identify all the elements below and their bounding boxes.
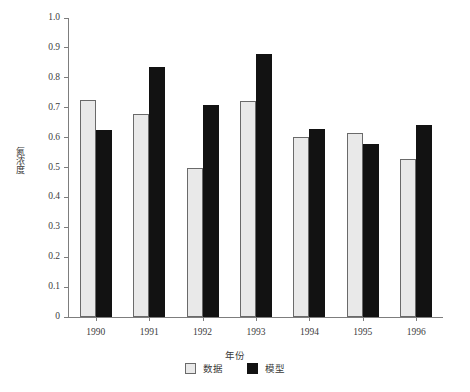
y-tick-label: 0.7 bbox=[48, 101, 60, 114]
legend-item-data[interactable]: 数据 bbox=[185, 361, 223, 375]
bar-model-1993 bbox=[256, 54, 272, 317]
bar-data-1991 bbox=[133, 114, 149, 317]
x-tick-mark bbox=[96, 317, 97, 321]
bar-data-1993 bbox=[240, 101, 256, 317]
bar-model-1990 bbox=[96, 130, 112, 317]
bar-group bbox=[283, 18, 336, 317]
y-tick-label: 0.9 bbox=[48, 41, 60, 54]
bar-data-1995 bbox=[347, 133, 363, 317]
bar-data-1994 bbox=[293, 137, 309, 317]
x-tick-label-1991: 1991 bbox=[140, 327, 159, 337]
bar-model-1995 bbox=[363, 144, 379, 317]
y-tick-label: 1.0 bbox=[48, 11, 60, 24]
x-tick-mark bbox=[256, 317, 257, 321]
x-axis-title: 年份 bbox=[0, 348, 470, 362]
bar-group bbox=[336, 18, 389, 317]
legend-label: 数据 bbox=[203, 361, 223, 375]
bar-model-1991 bbox=[149, 67, 165, 317]
x-tick-mark bbox=[309, 317, 310, 321]
x-tick-mark bbox=[363, 317, 364, 321]
legend-swatch-icon bbox=[185, 363, 196, 374]
y-tick-label: 0.5 bbox=[48, 161, 60, 174]
y-tick-label: 0.4 bbox=[48, 190, 60, 203]
bar-data-1990 bbox=[80, 100, 96, 317]
y-tick-label: 0.3 bbox=[48, 220, 60, 233]
x-tick-label-1995: 1995 bbox=[353, 327, 372, 337]
x-tick-label-1996: 1996 bbox=[407, 327, 426, 337]
bar-chart: 氮浓度 00.10.20.30.40.50.60.70.80.91.0 1990… bbox=[0, 0, 470, 392]
x-tick-label-1992: 1992 bbox=[193, 327, 212, 337]
legend-item-model[interactable]: 模型 bbox=[247, 361, 285, 375]
legend-label: 模型 bbox=[265, 361, 285, 375]
y-tick-label: 0.8 bbox=[48, 71, 60, 84]
bar-model-1996 bbox=[416, 125, 432, 317]
x-tick-mark bbox=[149, 317, 150, 321]
chart-legend: 数据模型 bbox=[0, 361, 470, 375]
legend-swatch-icon bbox=[247, 363, 258, 374]
bar-group bbox=[122, 18, 175, 317]
bar-group bbox=[390, 18, 443, 317]
y-tick-label: 0.6 bbox=[48, 131, 60, 144]
bar-group bbox=[69, 18, 122, 317]
x-tick-label-1993: 1993 bbox=[247, 327, 266, 337]
y-tick-label: 0.2 bbox=[48, 250, 60, 263]
bar-data-1992 bbox=[187, 168, 203, 318]
bars-layer bbox=[69, 18, 443, 317]
y-tick-label: 0.1 bbox=[48, 280, 60, 293]
x-tick-mark bbox=[416, 317, 417, 321]
plot-area: 00.10.20.30.40.50.60.70.80.91.0 19901991… bbox=[68, 18, 443, 318]
bar-group bbox=[229, 18, 282, 317]
bar-model-1994 bbox=[309, 129, 325, 317]
x-tick-label-1990: 1990 bbox=[86, 327, 105, 337]
x-tick-label-1994: 1994 bbox=[300, 327, 319, 337]
y-tick-label: 0 bbox=[55, 310, 60, 323]
bar-data-1996 bbox=[400, 159, 416, 317]
bar-model-1992 bbox=[203, 105, 219, 317]
x-tick-mark bbox=[203, 317, 204, 321]
bar-group bbox=[176, 18, 229, 317]
y-axis-title: 氮浓度 bbox=[8, 130, 32, 190]
